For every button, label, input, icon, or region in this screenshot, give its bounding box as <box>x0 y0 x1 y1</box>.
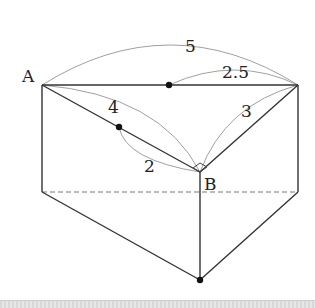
label-length-2.5: 2.5 <box>222 62 249 82</box>
label-length-3: 3 <box>241 101 252 121</box>
point-midpoint-AC <box>166 82 172 88</box>
arc-AC-5 <box>42 45 298 85</box>
bottom-border-bar <box>0 300 315 308</box>
edge-bottom-left <box>42 192 200 280</box>
label-length-4: 4 <box>108 97 119 117</box>
label-length-2: 2 <box>144 156 155 176</box>
label-A: A <box>21 66 35 86</box>
label-B: B <box>204 174 217 194</box>
edge-bottom-right <box>200 192 298 280</box>
edge-BC <box>200 85 298 172</box>
point-on-AB <box>116 124 122 130</box>
point-B-bottom <box>197 277 203 283</box>
label-length-5: 5 <box>185 36 196 56</box>
